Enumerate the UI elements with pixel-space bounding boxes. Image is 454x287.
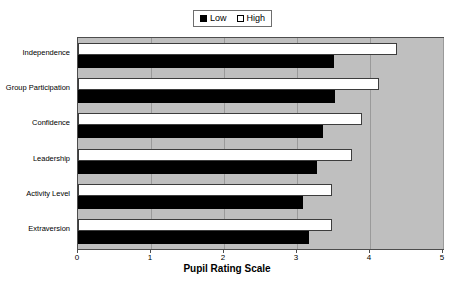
legend-entry-high: High	[237, 14, 266, 23]
x-tick-label: 1	[148, 254, 152, 262]
category-label: Leadership	[33, 155, 70, 163]
bar-group	[78, 43, 443, 73]
legend-entry-low: Low	[200, 14, 227, 23]
bar-group	[78, 219, 443, 249]
legend-swatch-high-icon	[237, 15, 244, 22]
bar-high	[78, 184, 332, 196]
chart-legend: Low High	[193, 10, 272, 27]
bar-low	[78, 90, 335, 103]
bar-chart: Low High IndependenceGroup Participation…	[0, 0, 454, 287]
bar-group	[78, 113, 443, 143]
bar-high	[78, 113, 362, 125]
plot-area	[77, 37, 444, 250]
x-tick-label: 3	[294, 254, 298, 262]
x-tick-label: 2	[221, 254, 225, 262]
x-tick-label: 5	[440, 254, 444, 262]
category-label: Confidence	[32, 119, 70, 127]
x-tick-label: 0	[75, 254, 79, 262]
legend-label-low: Low	[210, 14, 227, 23]
bar-series-container	[78, 38, 443, 249]
legend-label-high: High	[247, 14, 266, 23]
bar-high	[78, 149, 352, 161]
bar-high	[78, 43, 397, 55]
bar-low	[78, 125, 323, 138]
bar-group	[78, 184, 443, 214]
value-axis-labels: 012345	[77, 250, 442, 264]
bar-low	[78, 196, 303, 209]
bar-group	[78, 149, 443, 179]
category-label: Group Participation	[6, 84, 70, 92]
bar-high	[78, 219, 332, 231]
bar-high	[78, 78, 379, 90]
category-label: Independence	[22, 49, 70, 57]
x-tick-label: 4	[367, 254, 371, 262]
category-label: Extraversion	[28, 225, 70, 233]
category-axis-labels: IndependenceGroup ParticipationConfidenc…	[0, 37, 74, 248]
bar-group	[78, 78, 443, 108]
bar-low	[78, 55, 334, 68]
gridline	[443, 38, 444, 249]
category-label: Activity Level	[26, 190, 70, 198]
x-axis-title: Pupil Rating Scale	[0, 264, 454, 274]
bar-low	[78, 161, 317, 174]
legend-swatch-low-icon	[200, 15, 207, 22]
bar-low	[78, 231, 309, 244]
